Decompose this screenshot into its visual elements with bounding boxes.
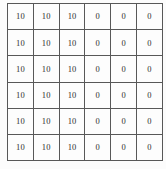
table-cell[interactable]: 0	[136, 108, 162, 134]
table-cell[interactable]: 10	[33, 82, 59, 108]
table-cell[interactable]: 10	[59, 108, 85, 134]
table-cell[interactable]: 10	[33, 56, 59, 82]
table-cell[interactable]: 0	[85, 30, 111, 56]
table-cell[interactable]: 0	[111, 4, 137, 30]
table-cell[interactable]: 10	[33, 134, 59, 160]
table-cell[interactable]: 0	[85, 134, 111, 160]
table-cell[interactable]: 10	[59, 4, 85, 30]
table-cell[interactable]: 10	[33, 108, 59, 134]
table-row: 10 10 10 0 0 0	[8, 56, 163, 82]
table-cell[interactable]: 0	[111, 82, 137, 108]
table-cell[interactable]: 10	[8, 56, 34, 82]
table-cell[interactable]: 10	[33, 30, 59, 56]
table-cell[interactable]: 10	[8, 82, 34, 108]
table-cell[interactable]: 0	[136, 30, 162, 56]
table-cell[interactable]: 0	[111, 56, 137, 82]
table-row: 10 10 10 0 0 0	[8, 30, 163, 56]
table-cell[interactable]: 0	[85, 108, 111, 134]
table-cell[interactable]: 10	[8, 30, 34, 56]
matrix-table-body: 10 10 10 0 0 0 10 10 10 0 0 0 10 10 10 0…	[8, 4, 163, 161]
table-cell[interactable]: 10	[8, 4, 34, 30]
table-cell[interactable]: 10	[59, 56, 85, 82]
table-row: 10 10 10 0 0 0	[8, 108, 163, 134]
table-cell[interactable]: 10	[8, 108, 34, 134]
table-row: 10 10 10 0 0 0	[8, 82, 163, 108]
table-cell[interactable]: 0	[111, 108, 137, 134]
table-cell[interactable]: 0	[136, 56, 162, 82]
matrix-canvas: 10 10 10 0 0 0 10 10 10 0 0 0 10 10 10 0…	[0, 0, 166, 169]
table-cell[interactable]: 0	[111, 30, 137, 56]
matrix-table: 10 10 10 0 0 0 10 10 10 0 0 0 10 10 10 0…	[7, 3, 163, 161]
table-cell[interactable]: 10	[59, 134, 85, 160]
table-cell[interactable]: 0	[85, 82, 111, 108]
table-cell[interactable]: 0	[136, 4, 162, 30]
table-cell[interactable]: 0	[136, 82, 162, 108]
table-row: 10 10 10 0 0 0	[8, 134, 163, 160]
table-cell[interactable]: 10	[8, 134, 34, 160]
table-cell[interactable]: 0	[85, 56, 111, 82]
table-cell[interactable]: 10	[59, 30, 85, 56]
table-cell[interactable]: 0	[111, 134, 137, 160]
table-row: 10 10 10 0 0 0	[8, 4, 163, 30]
table-cell[interactable]: 0	[136, 134, 162, 160]
table-cell[interactable]: 10	[33, 4, 59, 30]
table-cell[interactable]: 10	[59, 82, 85, 108]
table-cell[interactable]: 0	[85, 4, 111, 30]
